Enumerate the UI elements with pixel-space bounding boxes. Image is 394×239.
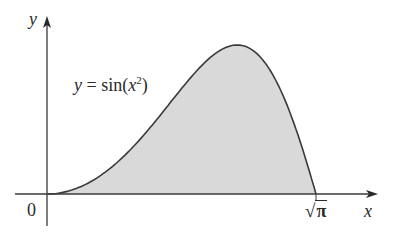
y-axis-label: y [29, 9, 37, 30]
x-axis-label: x [364, 201, 372, 222]
chart-canvas [0, 0, 394, 239]
curve-label-var: x [128, 75, 136, 95]
sqrt-pi-radicand: π [315, 200, 327, 221]
radical-icon: √ [305, 200, 315, 221]
curve-label-y: y [74, 75, 82, 95]
origin-label: 0 [27, 200, 36, 221]
sqrt-pi-label: √π [305, 200, 327, 222]
curve-label-close: ) [142, 75, 148, 95]
shaded-area [47, 45, 316, 194]
curve-label-eq: = sin( [82, 75, 128, 95]
curve-label: y = sin(x2) [74, 74, 148, 96]
